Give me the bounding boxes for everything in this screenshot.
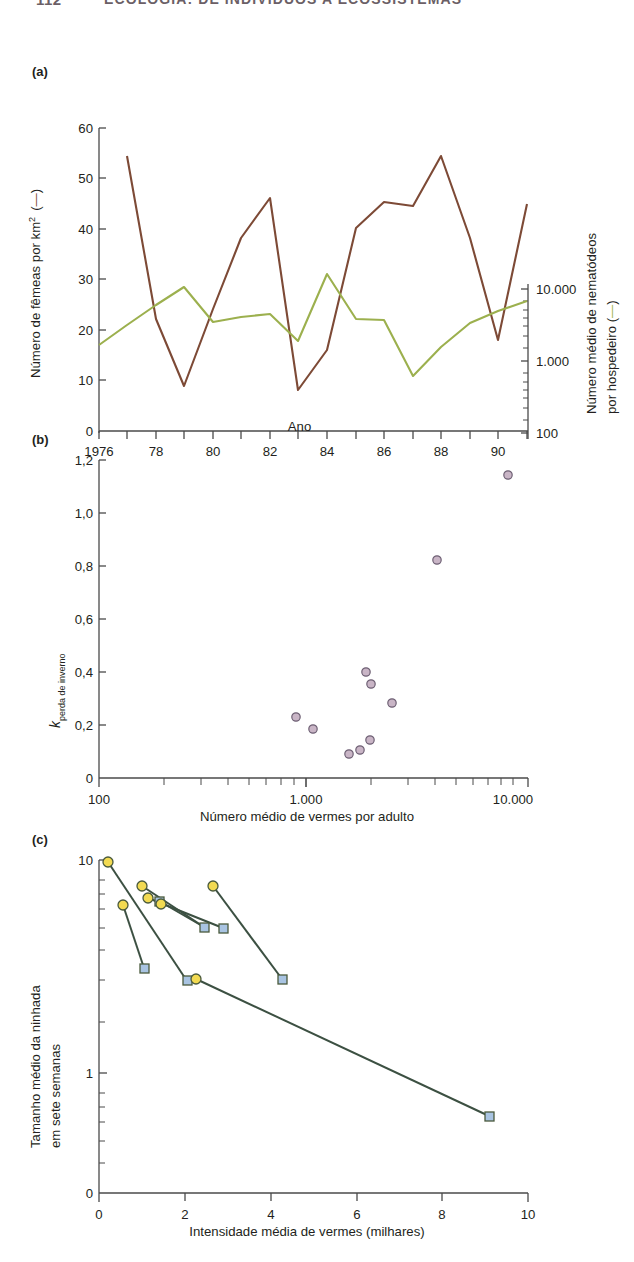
chart-a-y2tick-10000: 10.000 xyxy=(536,282,576,297)
chart-b-point xyxy=(504,471,512,479)
running-title: ECOLOGIA: DE INDIVÍDUOS A ECOSSISTEMAS xyxy=(104,0,462,7)
chart-b-point xyxy=(388,699,396,707)
chart-a-ylabel-left: Número de fêmeas por km2(—) xyxy=(27,189,43,378)
chart-c-ytick-0: 0 xyxy=(86,1186,93,1201)
chart-c-circle xyxy=(118,900,128,910)
chart-a-y2tick-1000: 1.000 xyxy=(536,354,569,369)
chart-a-ylabel-right-line2: por hospedeiro (—) xyxy=(604,300,619,414)
chart-a-ylabel-right-svg: Número médio de nematódeos por hospedeir… xyxy=(578,96,624,426)
chart-a-ytick-60: 60 xyxy=(78,121,93,136)
chart-a-ytick-20: 20 xyxy=(78,323,93,338)
chart-a-ytick-40: 40 xyxy=(78,222,93,237)
figure-page: 112 ECOLOGIA: DE INDIVÍDUOS A ECOSSISTEM… xyxy=(0,0,634,1262)
chart-b-points xyxy=(292,471,512,758)
chart-b-xtick-100: 100 xyxy=(88,792,110,807)
chart-c-square xyxy=(219,924,228,933)
chart-c-connectors xyxy=(108,862,489,1116)
chart-b-svg: 1,2 1,0 0,8 0,6 0,4 0,2 0 xyxy=(0,418,634,818)
chart-c-circle xyxy=(103,857,113,867)
chart-c-xtick-8: 8 xyxy=(438,1207,445,1222)
chart-b-point xyxy=(309,725,317,733)
chart-c-square xyxy=(278,975,287,984)
chart-b-ylabel: kperda de inverno xyxy=(47,653,67,728)
chart-c-xtick-0: 0 xyxy=(95,1207,102,1222)
chart-c-xtick-2: 2 xyxy=(181,1207,188,1222)
chart-c-circles xyxy=(103,857,218,984)
chart-c-connector xyxy=(123,905,144,968)
chart-c-circle xyxy=(208,881,218,891)
panel-a-label: (a) xyxy=(32,64,48,79)
chart-a-ytick-10: 10 xyxy=(78,373,93,388)
chart-a-ylabel-left-svg: Número de fêmeas por km2(—) xyxy=(20,116,60,416)
chart-c-ylabel-line2: em sete semanas xyxy=(48,1044,63,1148)
chart-b-yaxis: 1,2 1,0 0,8 0,6 0,4 0,2 0 xyxy=(75,453,106,786)
panel-b-label: (b) xyxy=(32,432,49,447)
chart-b-point xyxy=(433,556,441,564)
page-number: 112 xyxy=(36,0,62,8)
page-header: 112 ECOLOGIA: DE INDIVÍDUOS A ECOSSISTEM… xyxy=(0,0,634,12)
chart-c-circle xyxy=(137,881,147,891)
panel-b: (b) 1,2 1,0 0,8 0,6 0,4 0,2 0 xyxy=(0,418,634,818)
chart-b-point xyxy=(367,680,375,688)
chart-c-svg: 10 1 0 0 2 4 6 8 10 xyxy=(0,828,634,1262)
chart-b-point xyxy=(292,713,300,721)
chart-c-ylabel-svg: Tamanho médio da ninhada em sete semanas xyxy=(24,848,72,1178)
chart-c-circle xyxy=(156,899,166,909)
chart-c-ylabel-line1: Tamanho médio da ninhada xyxy=(28,985,43,1148)
chart-b-point xyxy=(345,750,353,758)
chart-c-square xyxy=(140,964,149,973)
chart-c-circle xyxy=(191,974,201,984)
chart-c-connector xyxy=(108,862,187,981)
chart-b-ytick-0: 0 xyxy=(86,771,93,786)
chart-c-connector xyxy=(196,979,489,1116)
chart-a-ylabel-right-line1: Número médio de nematódeos xyxy=(584,233,599,414)
chart-b-ylabel-svg: kperda de inverno xyxy=(38,518,78,778)
chart-c-square xyxy=(485,1112,494,1121)
chart-c-yaxis: 10 1 0 xyxy=(78,853,107,1201)
chart-a-ytick-30: 30 xyxy=(78,272,93,287)
chart-c-xaxis: 0 2 4 6 8 10 xyxy=(95,1193,535,1222)
chart-a-ytick-50: 50 xyxy=(78,171,93,186)
chart-b-ytick-1-2: 1,2 xyxy=(75,453,93,468)
chart-c-ytick-1: 1 xyxy=(86,1066,93,1081)
panel-c: (c) 10 1 0 xyxy=(0,828,634,1262)
chart-c-xlabel: Intensidade média de vermes (milhares) xyxy=(189,1224,424,1239)
chart-b-xtick-10000: 10.000 xyxy=(493,792,533,807)
chart-c-circle xyxy=(143,893,153,903)
chart-a-series-olive xyxy=(99,274,527,376)
chart-c-squares xyxy=(140,897,494,1121)
chart-b-xaxis: 100 1.000 10.000 xyxy=(88,778,533,807)
chart-c-xtick-6: 6 xyxy=(353,1207,360,1222)
chart-c-square xyxy=(200,923,209,932)
chart-b-xlabel: Número médio de vermes por adulto xyxy=(200,809,414,824)
chart-c-xtick-10: 10 xyxy=(521,1207,536,1222)
chart-b-xtick-1000: 1.000 xyxy=(289,792,322,807)
chart-b-point xyxy=(366,736,374,744)
chart-a-yaxis-left: 60 50 40 30 20 10 0 xyxy=(78,121,106,439)
chart-c-ytick-10: 10 xyxy=(78,853,93,868)
chart-b-point xyxy=(362,668,370,676)
chart-c-xtick-4: 4 xyxy=(267,1207,274,1222)
chart-a-svg: 60 50 40 30 20 10 0 xyxy=(0,56,634,416)
panel-a: (a) 60 50 40 30 20 10 0 xyxy=(0,56,634,416)
chart-b-point xyxy=(356,746,364,754)
panel-c-label: (c) xyxy=(32,832,48,847)
